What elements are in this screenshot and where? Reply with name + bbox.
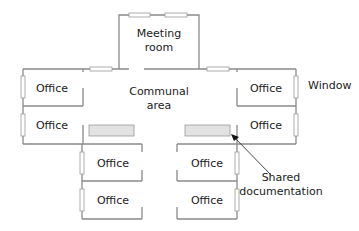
floor-plan: Meeting room Communal area Office Office… [0,0,359,231]
meeting-room: Meeting room [119,13,199,69]
communal-area-label-line2: area [147,99,172,112]
arrow-head-icon [231,134,239,141]
window-icon [21,114,25,136]
shared-documentation-shelf-right [185,125,230,136]
window-icon [294,114,298,136]
window-icon [129,13,150,17]
shared-documentation-label-line2: documentation [239,185,322,198]
bottom-left-offices: Office Office [80,144,142,219]
shared-documentation-shelf-left [89,125,134,136]
office-label: Office [97,157,129,170]
window-icon [80,189,84,211]
office-label: Office [97,194,129,207]
window-annotation: Window [308,79,351,92]
office-label: Office [250,82,282,95]
office-label: Office [36,82,68,95]
window-icon [21,76,25,98]
meeting-room-label-line2: room [145,41,173,54]
office-label: Office [36,119,68,132]
communal-area-label-line1: Communal [129,85,189,98]
window-icon [294,76,298,98]
bottom-right-offices: Office Office [177,144,239,219]
window-icon [80,152,84,174]
meeting-room-label-line1: Meeting [137,27,181,40]
communal-top-walls [23,67,296,71]
office-label: Office [250,119,282,132]
window-icon [90,67,112,71]
arrow-line [234,137,271,175]
shared-documentation-label-line1: Shared [262,171,301,184]
office-label: Office [191,157,223,170]
window-icon [207,67,229,71]
window-icon [165,13,187,17]
office-label: Office [191,194,223,207]
window-icon [235,152,239,174]
